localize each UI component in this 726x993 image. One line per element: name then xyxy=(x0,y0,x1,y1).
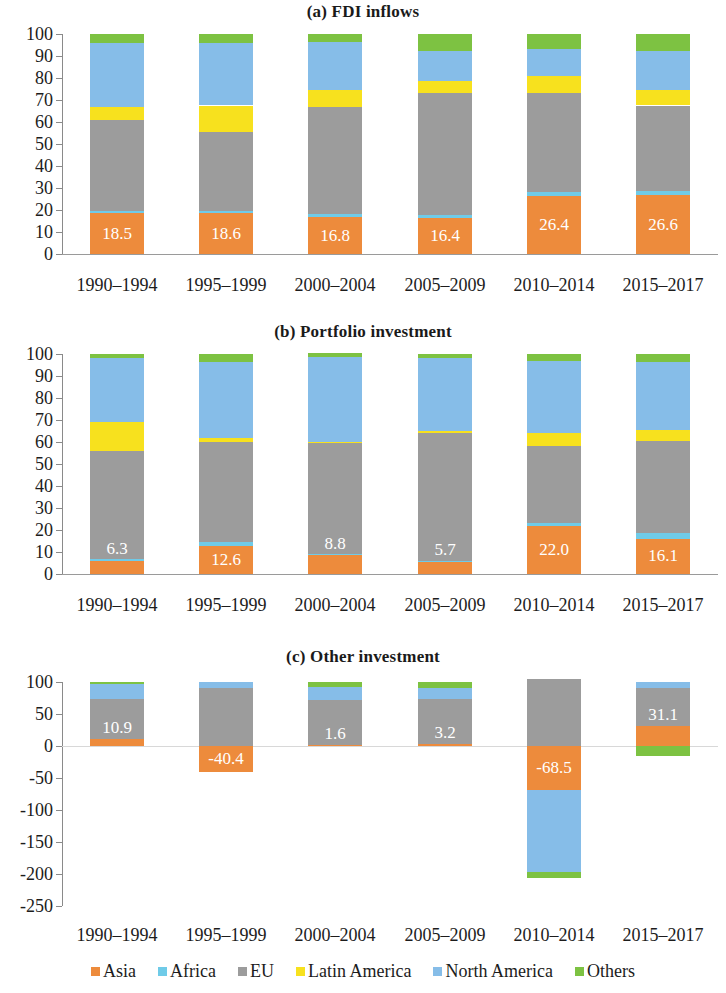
bar-segment-eu xyxy=(199,688,253,746)
bar-segment-latin-america xyxy=(418,81,472,93)
stacked-bar: 6.3 xyxy=(90,354,144,574)
stacked-bar: 5.7 xyxy=(418,354,472,574)
y-axis-tick-label: 0 xyxy=(44,565,53,583)
x-axis-tick-label: 2000–2004 xyxy=(275,924,395,946)
legend-swatch-icon xyxy=(91,967,100,976)
bar-segment-asia xyxy=(418,218,472,254)
bar-segment-africa xyxy=(418,561,472,562)
y-axis-tick-label: 70 xyxy=(35,91,53,109)
y-axis-tick-mark xyxy=(56,100,62,101)
bar-segment-others xyxy=(527,34,581,49)
bar-segment-eu xyxy=(527,446,581,523)
bar-segment-asia xyxy=(527,526,581,574)
stacked-bar: 16.4 xyxy=(418,34,472,254)
y-axis-tick-mark xyxy=(56,188,62,189)
stacked-bar: 22.0 xyxy=(527,354,581,574)
legend-item-eu[interactable]: EU xyxy=(238,961,274,981)
x-axis-tick-label: 1995–1999 xyxy=(166,924,286,946)
stacked-bar: 26.4 xyxy=(527,34,581,254)
y-axis-tick-mark xyxy=(56,464,62,465)
x-axis-tick-label: 1990–1994 xyxy=(57,274,177,296)
y-axis-tick-label: 60 xyxy=(35,433,53,451)
bar-segment-north-america xyxy=(90,43,144,107)
bar-segment-others xyxy=(418,354,472,358)
panel-a-x-axis-labels: 1990–19941995–19992000–20042005–20092010… xyxy=(0,274,726,298)
legend-label: North America xyxy=(445,961,552,981)
bar-segment-eu xyxy=(527,679,581,746)
legend-swatch-icon xyxy=(158,967,167,976)
panel-b-plot: 01020304050607080901006.312.68.85.722.01… xyxy=(0,344,726,594)
bar-segment-others xyxy=(90,682,144,684)
panel-c-title: (c) Other investment xyxy=(0,645,726,669)
x-axis-tick-label: 2010–2014 xyxy=(494,274,614,296)
x-axis-tick-label: 2005–2009 xyxy=(385,924,505,946)
bar-segment-asia xyxy=(636,726,690,746)
legend-item-others[interactable]: Others xyxy=(575,961,635,981)
y-axis-tick-mark xyxy=(56,530,62,531)
bar-segment-africa xyxy=(199,542,253,546)
baseline-axis xyxy=(62,254,718,255)
legend-item-latin-america[interactable]: Latin America xyxy=(296,961,411,981)
legend-item-africa[interactable]: Africa xyxy=(158,961,216,981)
legend-swatch-icon xyxy=(296,967,305,976)
bar-segment-asia xyxy=(308,217,362,254)
y-axis-tick-label: -250 xyxy=(20,897,53,915)
legend-label: Africa xyxy=(170,961,216,981)
bar-segment-others xyxy=(418,682,472,688)
y-axis-tick-mark xyxy=(56,842,62,843)
bar-segment-north-america xyxy=(90,358,144,422)
y-axis-tick-mark xyxy=(56,810,62,811)
stacked-bar: 1.6 xyxy=(308,682,362,906)
bar-segment-others xyxy=(308,34,362,42)
stacked-bar: 3.2 xyxy=(418,682,472,906)
bar-segment-africa xyxy=(308,214,362,217)
bar-segment-latin-america xyxy=(418,431,472,433)
y-axis-tick-label: 30 xyxy=(35,179,53,197)
bar-segment-latin-america xyxy=(636,90,690,105)
bar-segment-asia xyxy=(90,739,144,746)
y-axis-tick-mark xyxy=(56,508,62,509)
legend-label: Asia xyxy=(103,961,136,981)
y-axis-tick-mark xyxy=(56,78,62,79)
bar-segment-others xyxy=(199,354,253,362)
y-axis-tick-label: 60 xyxy=(35,113,53,131)
y-axis-tick-label: 0 xyxy=(44,245,53,263)
bar-segment-asia xyxy=(90,560,144,574)
x-axis-tick-label: 2005–2009 xyxy=(385,274,505,296)
stacked-bar: -68.5 xyxy=(527,682,581,906)
panel-b-x-axis-labels: 1990–19941995–19992000–20042005–20092010… xyxy=(0,594,726,618)
y-axis-tick-label: -150 xyxy=(20,833,53,851)
y-axis-tick-label: 90 xyxy=(35,47,53,65)
y-axis-tick-mark xyxy=(56,552,62,553)
y-axis-tick-mark xyxy=(56,398,62,399)
legend-label: EU xyxy=(250,961,274,981)
y-axis-tick-label: 50 xyxy=(35,705,53,723)
y-axis-tick-label: -100 xyxy=(20,801,53,819)
bar-segment-asia xyxy=(308,745,362,746)
bar-segment-north-america xyxy=(418,358,472,431)
legend-item-asia[interactable]: Asia xyxy=(91,961,136,981)
bar-segment-eu xyxy=(418,93,472,214)
bar-segment-eu xyxy=(418,433,472,561)
baseline-axis xyxy=(62,574,718,575)
bar-segment-africa xyxy=(418,215,472,218)
bar-segment-north-america xyxy=(199,682,253,688)
y-axis-tick-label: 80 xyxy=(35,69,53,87)
y-axis-tick-mark xyxy=(56,34,62,35)
bar-segment-north-america xyxy=(418,51,472,82)
y-axis-tick-label: -50 xyxy=(29,769,53,787)
y-axis-tick-label: 50 xyxy=(35,455,53,473)
stacked-bar: 10.9 xyxy=(90,682,144,906)
y-axis-tick-mark xyxy=(56,144,62,145)
bar-segment-others xyxy=(527,872,581,878)
legend-swatch-icon xyxy=(238,967,247,976)
legend-item-north-america[interactable]: North America xyxy=(433,961,552,981)
bar-segment-north-america xyxy=(308,687,362,700)
bar-segment-others xyxy=(308,682,362,686)
bar-segment-asia xyxy=(418,561,472,574)
bar-segment-north-america xyxy=(527,790,581,872)
y-axis-tick-label: 10 xyxy=(35,543,53,561)
y-axis-tick-label: -200 xyxy=(20,865,53,883)
y-axis-tick-label: 90 xyxy=(35,367,53,385)
x-axis-tick-label: 2005–2009 xyxy=(385,594,505,616)
